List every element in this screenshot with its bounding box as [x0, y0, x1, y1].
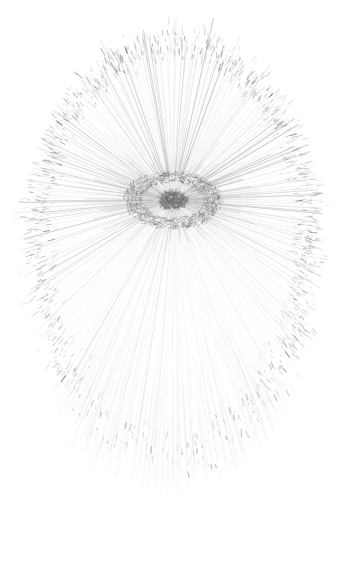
radial-burst-artwork: [0, 0, 345, 587]
artwork-canvas: [0, 0, 345, 587]
